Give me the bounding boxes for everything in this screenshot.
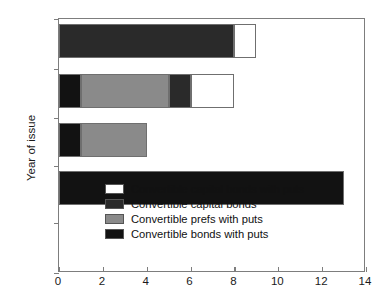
legend-label: Convertible capital bonds with puts: [131, 183, 304, 196]
legend-item: Convertible capital bonds: [105, 197, 304, 211]
x-tick: [147, 267, 148, 272]
bar-segment: [59, 24, 234, 58]
x-tick: [278, 267, 279, 272]
x-tick: [234, 267, 235, 272]
bar-segment: [81, 74, 169, 108]
x-tick-label: 8: [230, 275, 236, 288]
y-tick: [54, 69, 59, 70]
y-tick: [54, 273, 59, 274]
bar-chart: Year of issue 02468101214 19901989198819…: [0, 0, 385, 296]
x-tick-label: 2: [99, 275, 105, 288]
bar-1990: [59, 24, 366, 58]
legend-swatch: [105, 184, 124, 194]
legend-label: Convertible prefs with puts: [131, 213, 263, 226]
x-tick: [322, 267, 323, 272]
bar-1988: [59, 123, 366, 157]
bar-segment: [59, 123, 81, 157]
legend-label: Convertible capital bonds: [131, 198, 257, 211]
legend-swatch: [105, 229, 124, 239]
legend-item: Convertible capital bonds with puts: [105, 182, 304, 196]
y-tick: [54, 166, 59, 167]
legend-swatch: [105, 214, 124, 224]
y-axis-title: Year of issue: [25, 115, 37, 181]
x-tick-label: 4: [143, 275, 149, 288]
bar-segment: [191, 74, 235, 108]
bar-segment: [81, 123, 147, 157]
x-tick-label: 10: [271, 275, 284, 288]
x-tick: [59, 267, 60, 272]
x-tick-label: 14: [359, 275, 372, 288]
chart-legend: Convertible capital bonds with putsConve…: [105, 182, 304, 242]
x-tick: [191, 267, 192, 272]
x-tick-label: 0: [55, 275, 61, 288]
bar-segment: [59, 74, 81, 108]
bar-1989: [59, 74, 366, 108]
bar-segment: [169, 74, 191, 108]
y-tick: [54, 223, 59, 224]
bar-segment: [234, 24, 256, 58]
legend-swatch: [105, 199, 124, 209]
y-tick: [54, 19, 59, 20]
x-tick-label: 6: [186, 275, 192, 288]
legend-item: Convertible prefs with puts: [105, 212, 304, 226]
x-tick: [366, 267, 367, 272]
x-tick: [103, 267, 104, 272]
y-tick: [54, 118, 59, 119]
x-tick-label: 12: [315, 275, 328, 288]
legend-label: Convertible bonds with puts: [131, 228, 268, 241]
legend-item: Convertible bonds with puts: [105, 227, 304, 241]
